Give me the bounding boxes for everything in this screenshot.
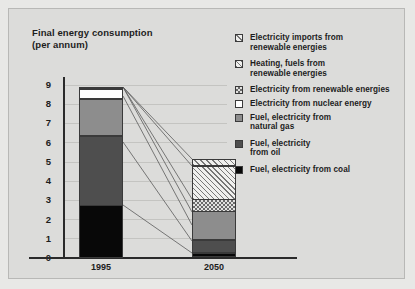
legend-item-fuel-electricity-oil[interactable]: Fuel, electricity from oil (235, 139, 400, 158)
legend: Electricity imports from renewable energ… (235, 33, 400, 179)
segment-1995-fuel-electricity-oil (79, 136, 123, 206)
y-tick-label-8: 8 (29, 99, 51, 108)
y-axis-line (63, 77, 65, 258)
segment-2050-heating-renewables (192, 166, 236, 200)
legend-item-fuel-electricity-gas[interactable]: Fuel, electricity from natural gas (235, 113, 400, 132)
legend-swatch-checkerboard-icon (235, 86, 243, 94)
legend-label-fuel-electricity-oil: Fuel, electricity from oil (250, 139, 310, 158)
legend-label-heating-renewables: Heating, fuels from renewable energies (250, 59, 327, 78)
legend-swatch-dark-gray-icon (235, 140, 243, 148)
bar-2050[interactable] (192, 159, 236, 257)
y-tick-label-9: 9 (29, 80, 51, 89)
segment-1995-electricity-nuclear (79, 89, 123, 99)
legend-item-electricity-imports[interactable]: Electricity imports from renewable energ… (235, 33, 400, 52)
legend-swatch-mid-gray-icon (235, 114, 243, 122)
legend-swatch-white-icon (235, 100, 243, 108)
legend-label-electricity-imports: Electricity imports from renewable energ… (250, 33, 343, 52)
legend-swatch-diagonal-hatch-dense-icon (235, 60, 243, 68)
y-tick-label-6: 6 (29, 138, 51, 147)
segment-1995-fuel-electricity-coal (79, 205, 123, 258)
x-tick-label-2050: 2050 (189, 262, 239, 272)
legend-item-electricity-renewables[interactable]: Electricity from renewable energies (235, 85, 400, 95)
legend-item-electricity-nuclear[interactable]: Electricity from nuclear energy (235, 99, 400, 109)
gridline-9 (64, 85, 227, 86)
segment-2050-electricity-renewables (192, 199, 236, 212)
segment-2050-fuel-electricity-coal (192, 253, 236, 258)
legend-label-electricity-renewables: Electricity from renewable energies (250, 85, 390, 95)
x-tick-label-1995: 1995 (76, 262, 126, 272)
y-tick-label-4: 4 (29, 176, 51, 185)
bar-1995[interactable] (79, 87, 123, 257)
segment-2050-fuel-electricity-gas (192, 211, 236, 240)
y-tick-label-3: 3 (29, 195, 51, 204)
segment-1995-fuel-electricity-gas (79, 99, 123, 137)
legend-label-electricity-nuclear: Electricity from nuclear energy (250, 99, 372, 109)
legend-swatch-diagonal-hatch-sparse-icon (235, 34, 243, 42)
y-tick-label-5: 5 (29, 157, 51, 166)
legend-label-fuel-electricity-coal: Fuel, electricity from coal (250, 165, 350, 175)
legend-swatch-black-icon (235, 166, 243, 174)
x-axis-line (29, 257, 297, 259)
segment-2050-fuel-electricity-oil (192, 240, 236, 254)
y-tick-label-7: 7 (29, 118, 51, 127)
y-tick-label-1: 1 (29, 234, 51, 243)
y-tick-label-2: 2 (29, 215, 51, 224)
legend-label-fuel-electricity-gas: Fuel, electricity from natural gas (250, 113, 331, 132)
chart-panel: Final energy consumption (per annum) 9 8… (8, 8, 405, 279)
legend-item-fuel-electricity-coal[interactable]: Fuel, electricity from coal (235, 165, 400, 175)
legend-item-heating-renewables[interactable]: Heating, fuels from renewable energies (235, 59, 400, 78)
